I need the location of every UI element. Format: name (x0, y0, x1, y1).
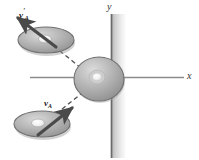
physics-figure-puck-collision: y x v′A vA (0, 0, 199, 160)
puck-at-wall (74, 57, 125, 103)
x-axis-label: x (187, 71, 191, 81)
vector-va-subscript: A (48, 103, 52, 109)
vector-va-prime-subscript: A (25, 15, 29, 21)
y-axis-label: y (107, 2, 111, 12)
vector-va-prime-label: v′A (19, 8, 29, 21)
figure-canvas (0, 0, 199, 160)
vector-va-label: vA (44, 99, 52, 109)
